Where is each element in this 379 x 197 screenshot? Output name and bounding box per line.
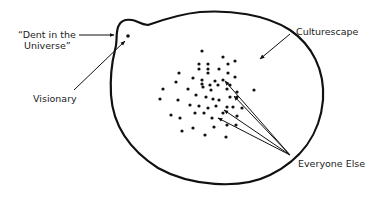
- culturescape-arrow: [260, 34, 290, 59]
- person-dot: [161, 87, 164, 90]
- person-dot: [225, 87, 228, 90]
- person-dot: [176, 98, 179, 101]
- person-dot: [200, 82, 203, 85]
- person-dot: [231, 105, 234, 108]
- person-dot: [174, 80, 177, 83]
- person-dot: [194, 93, 197, 96]
- person-dot: [240, 106, 243, 109]
- person-dot: [193, 111, 196, 114]
- person-dot: [206, 67, 209, 70]
- person-dot: [203, 133, 206, 136]
- person-dot: [226, 71, 229, 74]
- person-dot: [197, 67, 200, 70]
- culturescape-label: Culturescape: [296, 26, 358, 37]
- visionary-label: Visionary: [33, 93, 77, 104]
- person-dot: [233, 59, 236, 62]
- visionary-dot: [126, 34, 130, 38]
- person-dot: [201, 85, 204, 88]
- everyone-else-label: Everyone Else: [298, 158, 365, 169]
- person-dot: [221, 78, 224, 81]
- person-dot: [252, 88, 255, 91]
- person-dot: [200, 49, 203, 52]
- person-dot: [186, 87, 189, 90]
- person-dot: [197, 104, 200, 107]
- person-dot: [188, 103, 191, 106]
- person-dot: [206, 71, 209, 74]
- person-dot: [177, 71, 180, 74]
- dent-in-universe-label: “Dent in the Universe”: [18, 29, 76, 51]
- person-dot: [197, 62, 200, 65]
- everyone-arrow-1: [225, 81, 290, 155]
- person-dot: [225, 123, 228, 126]
- person-dot: [191, 126, 194, 129]
- person-dot: [214, 104, 217, 107]
- person-dot: [213, 79, 216, 82]
- person-dot: [217, 98, 220, 101]
- everyone-else-dots: [158, 49, 255, 138]
- person-dot: [216, 83, 219, 86]
- culturescape-boundary: [111, 12, 323, 185]
- person-dot: [158, 97, 161, 100]
- dent-label-line1: “Dent in the: [18, 29, 76, 40]
- person-dot: [206, 106, 209, 109]
- person-dot: [224, 135, 227, 138]
- person-dot: [180, 129, 183, 132]
- everyone-arrow-2: [234, 96, 290, 155]
- everyone-arrow-4: [218, 118, 290, 155]
- person-dot: [169, 113, 172, 116]
- person-dot: [228, 95, 231, 98]
- person-dot: [191, 76, 194, 79]
- person-dot: [211, 97, 214, 100]
- visionary-arrow: [74, 41, 125, 90]
- person-dot: [210, 116, 213, 119]
- person-dot: [202, 111, 205, 114]
- dent-label-line2: Universe”: [18, 40, 76, 51]
- person-dot: [200, 78, 203, 81]
- person-dot: [221, 111, 224, 114]
- person-dot: [206, 62, 209, 65]
- person-dot: [217, 67, 220, 70]
- person-dot: [208, 83, 211, 86]
- pointer-arrows: [74, 34, 290, 155]
- person-dot: [225, 105, 228, 108]
- person-dot: [226, 62, 229, 65]
- person-dot: [221, 55, 224, 58]
- person-dot: [204, 95, 207, 98]
- person-dot: [178, 116, 181, 119]
- person-dot: [233, 75, 236, 78]
- person-dot: [235, 114, 238, 117]
- person-dot: [209, 88, 212, 91]
- person-dot: [212, 125, 215, 128]
